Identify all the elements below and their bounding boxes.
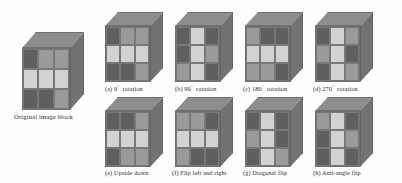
cube-panel-f bbox=[175, 97, 233, 167]
cube-panel-h-cell-r2c1 bbox=[316, 130, 330, 148]
cube-panel-b-cell-r1c1 bbox=[176, 27, 190, 45]
cube-panel-g-cell-r2c1 bbox=[246, 130, 260, 148]
cube-original-cell-r1c1 bbox=[23, 49, 38, 69]
cube-panel-a-cell-r3c1 bbox=[106, 63, 120, 81]
cube-panel-b bbox=[175, 12, 233, 82]
cube-panel-b-cell-r3c3 bbox=[205, 63, 219, 81]
cube-panel-d-cell-r1c1 bbox=[316, 27, 330, 45]
cube-panel-c-cell-r1c2 bbox=[260, 27, 274, 45]
cube-panel-d-cell-r3c3 bbox=[345, 63, 359, 81]
cube-panel-c-cell-r1c3 bbox=[275, 27, 289, 45]
caption-original: Original image block bbox=[14, 113, 73, 120]
cube-panel-d-front-face bbox=[315, 26, 360, 82]
cube-panel-a-cell-r2c2 bbox=[120, 45, 134, 63]
cube-panel-b-cell-r2c3 bbox=[205, 45, 219, 63]
caption-panel-a-suffix: rotation bbox=[122, 85, 142, 92]
caption-panel-d-text: (d) 270 bbox=[313, 85, 332, 92]
cube-panel-a-cell-r3c3 bbox=[135, 63, 149, 81]
cube-panel-g-body bbox=[245, 97, 303, 167]
cube-panel-e-cell-r1c2 bbox=[120, 112, 134, 130]
cube-panel-d-cell-r2c3 bbox=[345, 45, 359, 63]
cube-panel-f-cell-r2c1 bbox=[176, 130, 190, 148]
cube-panel-b-cell-r3c1 bbox=[176, 63, 190, 81]
cube-panel-b-cell-r2c1 bbox=[176, 45, 190, 63]
cube-panel-f-cell-r1c2 bbox=[190, 112, 204, 130]
cube-panel-g-front-face bbox=[245, 111, 290, 167]
caption-panel-a: (a) 0°rotation bbox=[105, 84, 143, 92]
caption-panel-b-text: (b) 90 bbox=[175, 85, 191, 92]
cube-panel-h-cell-r3c2 bbox=[330, 148, 344, 166]
cube-panel-b-front-face bbox=[175, 26, 220, 82]
cube-panel-d-cell-r1c3 bbox=[345, 27, 359, 45]
cube-panel-a-cell-r3c2 bbox=[120, 63, 134, 81]
cube-panel-g-cell-r3c1 bbox=[246, 148, 260, 166]
cube-panel-e-front-face bbox=[105, 111, 150, 167]
caption-panel-b: (b) 90°rotation bbox=[175, 84, 216, 92]
cube-panel-f-cell-r3c3 bbox=[205, 148, 219, 166]
cube-panel-h-cell-r1c3 bbox=[345, 112, 359, 130]
cube-panel-e-cell-r3c1 bbox=[106, 148, 120, 166]
cube-panel-b-body bbox=[175, 12, 233, 82]
cube-panel-c-cell-r1c1 bbox=[246, 27, 260, 45]
cube-panel-a-body bbox=[105, 12, 163, 82]
cube-panel-c-cell-r3c2 bbox=[260, 63, 274, 81]
cube-panel-h bbox=[315, 97, 373, 167]
cube-panel-h-cell-r1c1 bbox=[316, 112, 330, 130]
cube-panel-a-cell-r1c2 bbox=[120, 27, 134, 45]
cube-panel-f-cell-r2c2 bbox=[190, 130, 204, 148]
cube-panel-g bbox=[245, 97, 303, 167]
caption-panel-b-suffix: rotation bbox=[196, 85, 216, 92]
cube-panel-c-cell-r2c1 bbox=[246, 45, 260, 63]
cube-panel-c bbox=[245, 12, 303, 82]
cube-panel-e-cell-r3c2 bbox=[120, 148, 134, 166]
cube-panel-g-cell-r1c3 bbox=[275, 112, 289, 130]
cube-original-body bbox=[22, 32, 84, 110]
degree-symbol-b: ° bbox=[191, 84, 193, 89]
cube-panel-g-cell-r3c2 bbox=[260, 148, 274, 166]
cube-panel-a-cell-r1c1 bbox=[106, 27, 120, 45]
cube-panel-d-cell-r2c2 bbox=[330, 45, 344, 63]
caption-panel-c: (c) 180°rotation bbox=[243, 84, 287, 92]
cube-panel-a bbox=[105, 12, 163, 82]
cube-panel-h-cell-r3c3 bbox=[345, 148, 359, 166]
cube-panel-a-front-face bbox=[105, 26, 150, 82]
cube-original-cell-r2c1 bbox=[23, 69, 38, 89]
cube-panel-c-cell-r2c2 bbox=[260, 45, 274, 63]
cube-panel-e-cell-r2c2 bbox=[120, 130, 134, 148]
caption-panel-d: (d) 270°rotation bbox=[313, 84, 358, 92]
cube-original-cell-r2c3 bbox=[54, 69, 69, 89]
cube-panel-d-cell-r3c1 bbox=[316, 63, 330, 81]
cube-panel-f-body bbox=[175, 97, 233, 167]
cube-panel-c-front-face bbox=[245, 26, 290, 82]
cube-panel-f-cell-r2c3 bbox=[205, 130, 219, 148]
cube-original bbox=[22, 32, 84, 110]
cube-panel-f-cell-r1c3 bbox=[205, 112, 219, 130]
cube-panel-h-cell-r2c3 bbox=[345, 130, 359, 148]
cube-panel-f-cell-r1c1 bbox=[176, 112, 190, 130]
caption-panel-d-suffix: rotation bbox=[337, 85, 357, 92]
cube-original-cell-r3c2 bbox=[38, 89, 53, 109]
cube-panel-b-cell-r1c2 bbox=[190, 27, 204, 45]
cube-panel-a-cell-r2c1 bbox=[106, 45, 120, 63]
cube-panel-a-cell-r1c3 bbox=[135, 27, 149, 45]
cube-panel-h-body bbox=[315, 97, 373, 167]
cube-panel-g-cell-r2c2 bbox=[260, 130, 274, 148]
cube-panel-c-cell-r3c1 bbox=[246, 63, 260, 81]
degree-symbol-c: ° bbox=[262, 84, 264, 89]
cube-original-front-face bbox=[22, 48, 70, 110]
caption-panel-h: (h) Anti-angle flip bbox=[313, 169, 361, 176]
cube-panel-d-cell-r1c2 bbox=[330, 27, 344, 45]
cube-panel-b-cell-r1c3 bbox=[205, 27, 219, 45]
cube-panel-e-body bbox=[105, 97, 163, 167]
cube-original-cell-r3c3 bbox=[54, 89, 69, 109]
cube-panel-d-cell-r2c1 bbox=[316, 45, 330, 63]
cube-panel-h-front-face bbox=[315, 111, 360, 167]
cube-panel-e-cell-r1c1 bbox=[106, 112, 120, 130]
caption-panel-a-text: (a) 0 bbox=[105, 85, 117, 92]
caption-panel-g: (g) Diagonal flip bbox=[243, 169, 287, 176]
cube-panel-a-cell-r2c3 bbox=[135, 45, 149, 63]
cube-panel-b-cell-r3c2 bbox=[190, 63, 204, 81]
cube-panel-g-cell-r1c2 bbox=[260, 112, 274, 130]
caption-panel-c-suffix: rotation bbox=[267, 85, 287, 92]
cube-panel-e-cell-r3c3 bbox=[135, 148, 149, 166]
